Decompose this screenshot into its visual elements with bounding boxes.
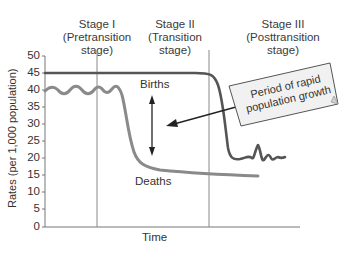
births-label: Births xyxy=(140,78,169,90)
plot-area xyxy=(0,0,350,253)
deaths-label: Deaths xyxy=(135,175,171,187)
double-arrow-icon xyxy=(149,95,155,156)
